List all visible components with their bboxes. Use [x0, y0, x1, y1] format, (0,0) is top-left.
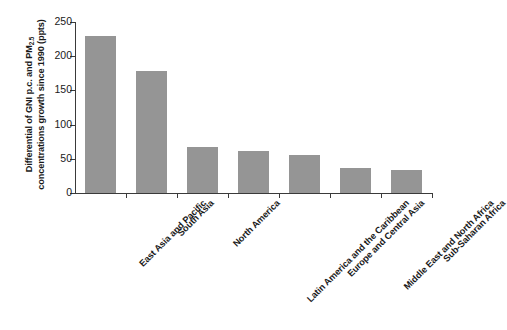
y-axis-title-line-1-text: Differential of GNI p.c. and PM [24, 45, 34, 172]
y-axis-tick-label: 250 [54, 15, 72, 28]
x-axis-category-label: North America [231, 198, 282, 249]
bar [85, 36, 116, 193]
x-axis-category-label: Sub-Saharan Africa [441, 198, 507, 264]
bar [340, 168, 371, 193]
y-axis-title-line-2: concentrations growth since 1990 (ppts) [36, 19, 47, 189]
y-axis-tick-label: 200 [54, 49, 72, 62]
bar [391, 170, 422, 193]
x-axis-category-label: Latin America and the Caribbean [305, 198, 411, 304]
bar [289, 155, 320, 193]
y-axis-title-subscript: 2.5 [28, 37, 35, 45]
bar [238, 151, 269, 193]
x-axis-category-label: Europe and Central Asia [345, 198, 426, 279]
x-axis-line [75, 193, 432, 194]
bars-container [75, 22, 432, 193]
bar [136, 71, 167, 193]
y-axis-tick-label: 0 [66, 186, 72, 199]
x-axis-category-labels: East Asia and PacificSouth AsiaNorth Ame… [75, 198, 439, 328]
y-axis-tick-label: 150 [54, 83, 72, 96]
plot-area: 050100150200250 [75, 22, 432, 193]
y-axis-tick-label: 100 [54, 118, 72, 131]
bar [187, 147, 218, 193]
y-axis-tick-label: 50 [60, 152, 72, 165]
y-axis-title: Differential of GNI p.c. and PM2.5 conce… [13, 12, 57, 197]
y-axis-title-line-1: Differential of GNI p.c. and PM2.5 [24, 37, 35, 173]
